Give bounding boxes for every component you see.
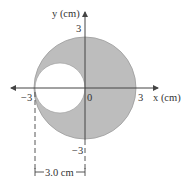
y-tick-neg3: −3 — [72, 145, 83, 156]
x-tick-0: 0 — [87, 92, 92, 103]
x-tick-neg3: −3 — [21, 92, 32, 103]
y-tick-3: 3 — [76, 23, 81, 34]
disk-with-hole-diagram: y (cm) 3 −3 0 3 x (cm) −3 3.0 cm — [0, 0, 193, 190]
x-axis-label: x (cm) — [153, 92, 181, 104]
x-tick-3: 3 — [138, 92, 143, 103]
y-axis-label: y (cm) — [52, 8, 80, 20]
dimension-label: 3.0 cm — [45, 167, 74, 178]
